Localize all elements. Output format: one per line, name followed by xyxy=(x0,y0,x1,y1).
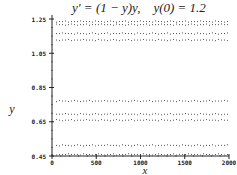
data-point xyxy=(116,114,117,115)
data-point xyxy=(155,113,156,114)
data-point xyxy=(206,119,207,120)
data-point xyxy=(185,25,186,26)
data-point xyxy=(80,145,81,146)
data-point xyxy=(167,101,168,102)
data-point xyxy=(146,24,147,25)
data-point xyxy=(167,32,168,33)
data-point xyxy=(137,144,138,145)
data-point xyxy=(113,120,114,121)
data-point xyxy=(191,33,192,34)
data-point xyxy=(80,155,81,156)
data-point xyxy=(194,21,195,22)
data-point xyxy=(86,145,87,146)
data-point xyxy=(77,21,78,22)
data-point xyxy=(221,119,222,120)
data-point xyxy=(68,114,69,115)
data-point xyxy=(161,24,162,25)
data-point xyxy=(140,101,141,102)
data-point xyxy=(140,40,141,41)
data-point xyxy=(143,145,144,146)
data-point xyxy=(164,100,165,101)
data-point xyxy=(77,154,78,155)
data-point xyxy=(68,120,69,121)
data-point xyxy=(134,34,135,35)
data-point xyxy=(95,40,96,41)
data-point xyxy=(176,22,177,23)
data-point xyxy=(194,114,195,115)
data-point xyxy=(176,114,177,115)
data-point xyxy=(71,114,72,115)
data-point xyxy=(65,145,66,146)
data-point xyxy=(185,120,186,121)
data-point xyxy=(119,114,120,115)
data-point xyxy=(152,144,153,145)
data-point xyxy=(167,114,168,115)
data-point xyxy=(92,40,93,41)
data-point xyxy=(227,24,228,25)
data-point xyxy=(170,113,171,114)
data-point xyxy=(80,40,81,41)
data-point xyxy=(152,101,153,102)
data-point xyxy=(227,21,228,22)
data-point xyxy=(185,154,186,155)
data-point xyxy=(137,40,138,41)
data-point xyxy=(224,33,225,34)
data-point xyxy=(227,120,228,121)
data-point xyxy=(56,119,57,120)
data-point xyxy=(122,120,123,121)
data-point xyxy=(134,40,135,41)
data-point xyxy=(110,34,111,35)
data-point xyxy=(179,154,180,155)
data-point xyxy=(110,24,111,25)
data-point xyxy=(206,154,207,155)
data-point xyxy=(224,145,225,146)
data-point xyxy=(146,114,147,115)
data-point xyxy=(140,120,141,121)
data-point xyxy=(161,40,162,41)
data-point xyxy=(56,101,57,102)
data-point xyxy=(170,154,171,155)
data-point xyxy=(155,33,156,34)
data-point xyxy=(218,39,219,40)
data-point xyxy=(161,119,162,120)
data-point xyxy=(200,145,201,146)
data-point xyxy=(59,40,60,41)
data-point xyxy=(176,145,177,146)
data-point xyxy=(164,24,165,25)
data-point xyxy=(137,32,138,33)
data-point xyxy=(92,22,93,23)
data-point xyxy=(143,120,144,121)
data-point xyxy=(143,153,144,154)
data-point xyxy=(74,100,75,101)
data-point xyxy=(92,155,93,156)
data-point xyxy=(191,24,192,25)
data-point xyxy=(191,101,192,102)
data-point xyxy=(197,21,198,22)
data-point xyxy=(152,32,153,33)
data-point xyxy=(131,40,132,41)
data-point xyxy=(143,33,144,34)
data-point xyxy=(68,153,69,154)
data-point xyxy=(188,24,189,25)
data-point xyxy=(182,114,183,115)
data-point xyxy=(107,114,108,115)
data-point xyxy=(227,40,228,41)
data-point xyxy=(158,39,159,40)
data-point xyxy=(68,24,69,25)
data-point xyxy=(158,145,159,146)
data-point xyxy=(119,40,120,41)
data-point xyxy=(203,24,204,25)
data-point xyxy=(83,114,84,115)
x-tick-label: 0 xyxy=(50,159,54,166)
data-point xyxy=(146,21,147,22)
data-point xyxy=(173,114,174,115)
data-point xyxy=(179,33,180,34)
data-point xyxy=(119,154,120,155)
data-point xyxy=(107,144,108,145)
data-point xyxy=(167,40,168,41)
data-point xyxy=(164,114,165,115)
data-point xyxy=(134,120,135,121)
data-point xyxy=(65,154,66,155)
data-point xyxy=(212,40,213,41)
data-point xyxy=(146,101,147,102)
